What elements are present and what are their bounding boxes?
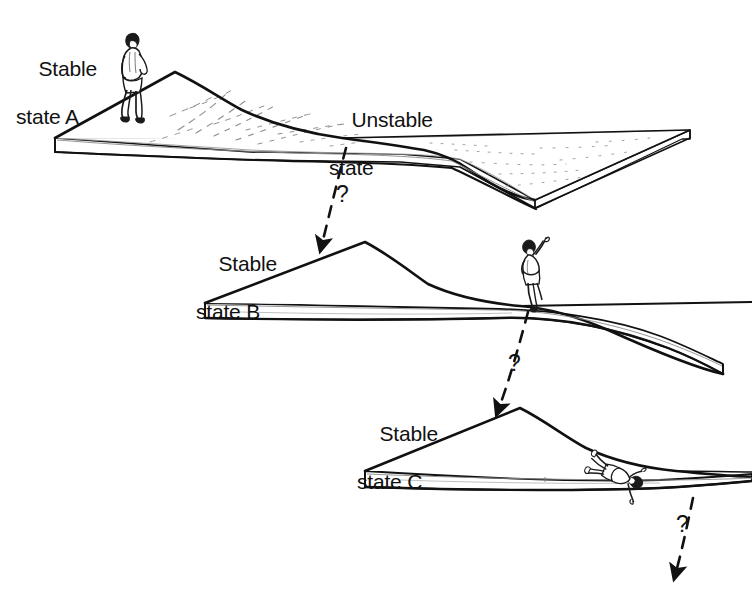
label-stable-state-b: Stable state B bbox=[196, 228, 277, 372]
landscape-b-back-rim bbox=[520, 302, 752, 306]
label-stable-state-c-line1: Stable bbox=[380, 422, 438, 445]
question-mark-b-to-c: ? bbox=[508, 350, 521, 377]
label-stable-state-c: Stable state C bbox=[357, 398, 438, 542]
label-stable-state-c-line2: state C bbox=[357, 470, 438, 494]
figure-root: Stable state A Unstable state Stable sta… bbox=[0, 0, 752, 601]
landscape-c-back-rim bbox=[676, 471, 752, 472]
label-stable-state-a-line2: state A bbox=[16, 105, 97, 129]
label-unstable-state-line2: state bbox=[329, 156, 433, 180]
label-stable-state-a: Stable state A bbox=[16, 33, 97, 177]
label-stable-state-b-line1: Stable bbox=[219, 252, 277, 275]
label-stable-state-b-line2: state B bbox=[196, 300, 277, 324]
label-stable-state-a-line1: Stable bbox=[39, 57, 97, 80]
label-unstable-state-line1: Unstable bbox=[352, 108, 433, 131]
landscape-b-group bbox=[205, 242, 752, 374]
landscape-a-hill-body bbox=[55, 72, 360, 140]
question-mark-c-to-fall: ? bbox=[676, 511, 689, 538]
question-mark-a-to-b: ? bbox=[336, 181, 349, 208]
balancing-person-figure bbox=[522, 237, 550, 312]
